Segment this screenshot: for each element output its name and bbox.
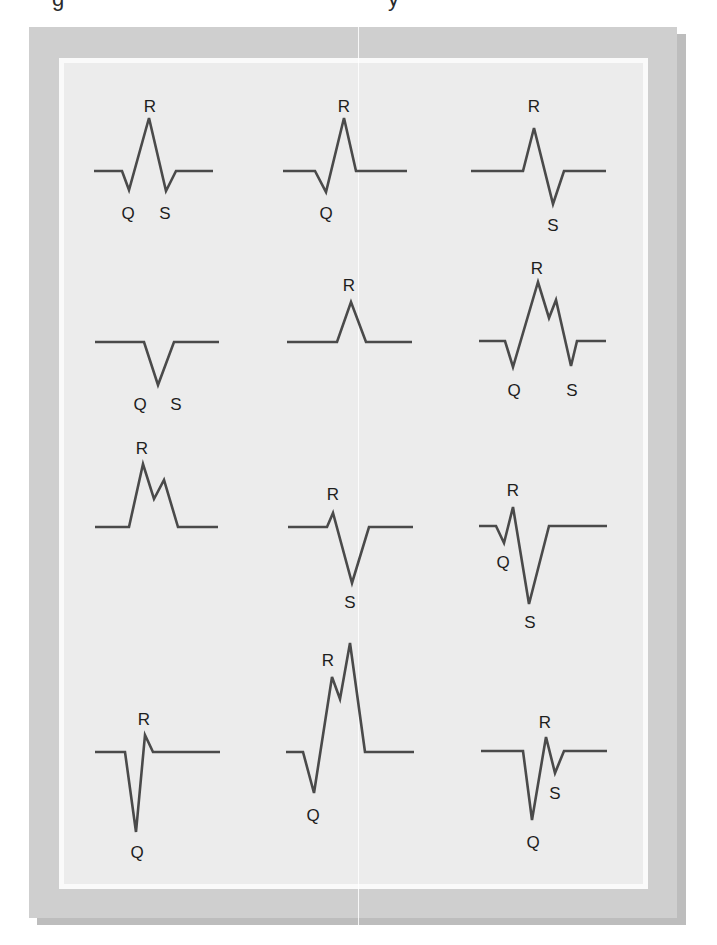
- waveform-trace: [95, 464, 218, 527]
- wave-label-q: Q: [496, 553, 509, 572]
- wave-label-r: R: [531, 259, 543, 278]
- qrs-complex-diagram: RQSRQRSQSRRQSRRSRQSRQRQRSQ: [0, 0, 717, 945]
- wave-label-q: Q: [526, 833, 539, 852]
- wave-label-r: R: [136, 439, 148, 458]
- waveform-trace: [283, 118, 407, 192]
- waveform-trace: [95, 342, 219, 385]
- wave-label-s: S: [344, 593, 355, 612]
- wave-label-r: R: [338, 97, 350, 116]
- qrs-waveform: RQ: [95, 710, 220, 862]
- qrs-waveform: R: [287, 276, 412, 342]
- wave-label-r: R: [322, 651, 334, 670]
- qrs-waveform: RQ: [286, 643, 414, 825]
- wave-label-s: S: [159, 204, 170, 223]
- wave-label-q: Q: [319, 204, 332, 223]
- wave-label-r: R: [528, 97, 540, 116]
- waveform-trace: [287, 302, 412, 342]
- waveform-trace: [288, 513, 413, 583]
- wave-label-s: S: [170, 395, 181, 414]
- wave-label-s: S: [566, 381, 577, 400]
- wave-label-r: R: [138, 710, 150, 729]
- waveform-trace: [95, 735, 220, 832]
- qrs-waveform: RS: [288, 485, 413, 612]
- qrs-waveform: RQ: [283, 97, 407, 223]
- qrs-waveform: RQS: [94, 97, 213, 223]
- wave-label-r: R: [327, 485, 339, 504]
- wave-label-s: S: [524, 613, 535, 632]
- qrs-waveform: RSQ: [481, 713, 607, 852]
- wave-label-r: R: [144, 97, 156, 116]
- qrs-waveform: RS: [471, 97, 606, 235]
- wave-label-r: R: [507, 481, 519, 500]
- wave-label-s: S: [547, 216, 558, 235]
- qrs-waveform: RQS: [479, 481, 607, 632]
- qrs-waveform: RQS: [479, 259, 606, 400]
- waveform-trace: [286, 643, 414, 793]
- wave-label-q: Q: [306, 806, 319, 825]
- wave-label-q: Q: [133, 395, 146, 414]
- wave-label-r: R: [539, 713, 551, 732]
- wave-label-s: S: [549, 784, 560, 803]
- wave-label-q: Q: [130, 843, 143, 862]
- waveform-trace: [481, 737, 607, 820]
- wave-label-q: Q: [507, 381, 520, 400]
- qrs-waveform: QS: [95, 342, 219, 414]
- waveform-trace: [479, 282, 606, 367]
- waveform-trace: [471, 128, 606, 204]
- qrs-waveform: R: [95, 439, 218, 527]
- wave-label-q: Q: [121, 204, 134, 223]
- waveform-trace: [94, 118, 213, 191]
- wave-label-r: R: [343, 276, 355, 295]
